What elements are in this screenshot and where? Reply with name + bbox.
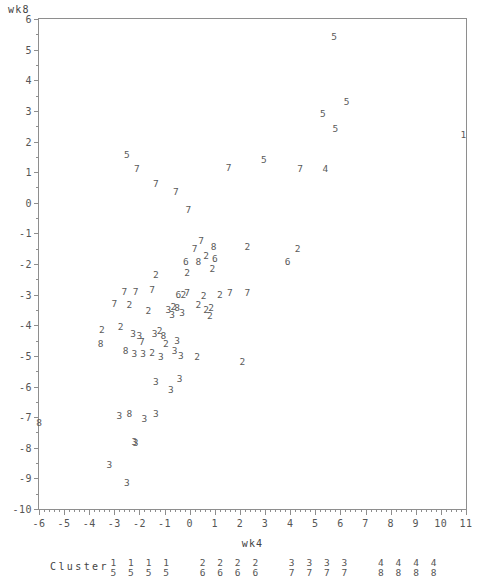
x-axis-minor-tick xyxy=(54,509,55,512)
data-point-marker: 7 xyxy=(139,337,145,347)
x-axis-minor-tick xyxy=(260,509,261,512)
data-point-marker: 7 xyxy=(184,288,190,298)
x-axis-minor-tick xyxy=(180,509,181,512)
legend-cluster-pair: 37 xyxy=(289,558,295,578)
x-axis-minor-tick xyxy=(175,509,176,512)
x-axis-minor-tick xyxy=(59,509,60,512)
legend-cluster-bottom: 8 xyxy=(413,568,419,578)
x-axis-minor-tick xyxy=(150,509,151,512)
x-axis-minor-tick xyxy=(456,509,457,512)
x-axis-minor-tick xyxy=(255,509,256,512)
y-axis-tick-label: -2 xyxy=(19,259,32,270)
data-point-marker: 7 xyxy=(133,287,139,297)
x-axis-minor-tick xyxy=(124,509,125,512)
x-axis-tick xyxy=(39,509,40,515)
y-axis-tick xyxy=(34,50,39,51)
data-point-marker: 3 xyxy=(174,336,180,346)
x-axis-minor-tick xyxy=(210,509,211,512)
x-axis-tick-label: 11 xyxy=(459,518,472,529)
y-axis-tick xyxy=(34,387,39,388)
y-axis-tick xyxy=(34,264,39,265)
x-axis-tick-label: -3 xyxy=(108,518,121,529)
x-axis-minor-tick xyxy=(330,509,331,512)
legend-cluster-bottom: 7 xyxy=(306,568,312,578)
x-axis-tick xyxy=(114,509,115,515)
x-axis-minor-tick xyxy=(280,509,281,512)
legend-cluster-bottom: 6 xyxy=(235,568,241,578)
x-axis-minor-tick xyxy=(426,509,427,512)
y-axis-tick xyxy=(34,19,39,20)
x-axis-minor-tick xyxy=(436,509,437,512)
data-point-marker: 7 xyxy=(111,299,117,309)
x-axis-tick-label: -6 xyxy=(32,518,45,529)
x-axis-minor-tick xyxy=(310,509,311,512)
y-axis-tick xyxy=(34,80,39,81)
data-point-marker: 8 xyxy=(36,419,42,429)
x-axis-minor-tick xyxy=(345,509,346,512)
y-axis-minor-tick xyxy=(36,157,39,158)
data-point-marker: 3 xyxy=(106,460,112,470)
data-point-marker: 8 xyxy=(98,339,104,349)
x-axis-minor-tick xyxy=(49,509,50,512)
x-axis-minor-tick xyxy=(421,509,422,512)
data-point-marker: 8 xyxy=(196,258,202,268)
y-axis-tick-label: -5 xyxy=(19,350,32,361)
legend-cluster-pair: 26 xyxy=(217,558,223,578)
x-axis-minor-tick xyxy=(431,509,432,512)
x-axis-minor-tick xyxy=(406,509,407,512)
data-point-marker: 8 xyxy=(127,409,133,419)
x-axis-minor-tick xyxy=(320,509,321,512)
x-axis-tick-label: 6 xyxy=(337,518,344,529)
x-axis-tick-label: 5 xyxy=(312,518,319,529)
x-axis-minor-tick xyxy=(129,509,130,512)
data-point-marker: 2 xyxy=(196,301,202,311)
data-point-marker: 3 xyxy=(158,353,164,363)
x-axis-minor-tick xyxy=(74,509,75,512)
y-axis-tick-label: -6 xyxy=(19,381,32,392)
x-axis-minor-tick xyxy=(411,509,412,512)
x-axis-minor-tick xyxy=(195,509,196,512)
x-axis-tick xyxy=(441,509,442,515)
data-point-marker: 7 xyxy=(186,206,192,216)
x-axis-tick-label: -4 xyxy=(83,518,96,529)
y-axis-minor-tick xyxy=(36,432,39,433)
y-axis-tick-label: -3 xyxy=(19,289,32,300)
x-axis-minor-tick xyxy=(461,509,462,512)
data-point-marker: 3 xyxy=(132,350,138,360)
y-axis-minor-tick xyxy=(36,96,39,97)
x-axis-tick xyxy=(340,509,341,515)
x-axis-minor-tick xyxy=(134,509,135,512)
y-axis-tick-label: 0 xyxy=(25,197,32,208)
x-axis-tick-label: -1 xyxy=(158,518,171,529)
x-axis-minor-tick xyxy=(245,509,246,512)
data-point-marker: 3 xyxy=(168,385,174,395)
data-point-marker: 2 xyxy=(118,322,124,332)
data-point-marker: 3 xyxy=(140,350,146,360)
x-axis-minor-tick xyxy=(401,509,402,512)
data-point-marker: 2 xyxy=(145,307,151,317)
x-axis-minor-tick xyxy=(446,509,447,512)
x-axis-minor-tick xyxy=(335,509,336,512)
y-axis-minor-tick xyxy=(36,65,39,66)
data-point-marker: 7 xyxy=(226,163,232,173)
x-axis-minor-tick xyxy=(69,509,70,512)
data-point-marker: 3 xyxy=(153,409,159,419)
y-axis-minor-tick xyxy=(36,279,39,280)
data-point-marker: 3 xyxy=(142,414,148,424)
y-axis-minor-tick xyxy=(36,494,39,495)
y-axis-tick xyxy=(34,356,39,357)
x-axis-minor-tick xyxy=(220,509,221,512)
x-axis-minor-tick xyxy=(104,509,105,512)
data-point-marker: 7 xyxy=(134,164,140,174)
x-axis-tick xyxy=(265,509,266,515)
data-point-marker: 3 xyxy=(172,347,178,357)
x-axis-minor-tick xyxy=(109,509,110,512)
y-axis-tick xyxy=(34,448,39,449)
x-axis-minor-tick xyxy=(200,509,201,512)
scatter-plot-figure: wk8 6543210-1-2-3-4-5-6-7-8-9-10-6-5-4-3… xyxy=(0,0,479,582)
y-axis-tick-label: 4 xyxy=(25,75,32,86)
y-axis-minor-tick xyxy=(36,310,39,311)
x-axis-tick-label: 3 xyxy=(262,518,269,529)
data-point-marker: 2 xyxy=(127,301,133,311)
legend-cluster-pair: 15 xyxy=(110,558,116,578)
